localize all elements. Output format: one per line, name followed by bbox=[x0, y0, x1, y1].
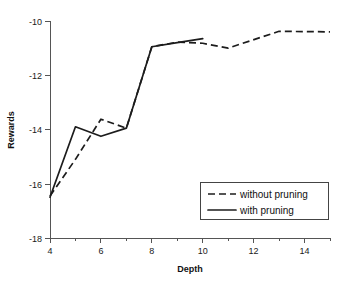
x-tick-label: 12 bbox=[249, 246, 259, 256]
y-tick-label: -18 bbox=[29, 234, 42, 244]
x-tick-label: 8 bbox=[149, 246, 154, 256]
y-tick-label: -16 bbox=[29, 180, 42, 190]
x-tick-label: 4 bbox=[47, 246, 52, 256]
y-axis-ticks bbox=[45, 21, 50, 238]
legend-label-with-pruning: with pruning bbox=[239, 205, 294, 216]
series-with-pruning bbox=[50, 39, 203, 198]
legend-label-without-pruning: without pruning bbox=[239, 189, 308, 200]
series-without-pruning bbox=[50, 31, 330, 196]
x-tick-label: 14 bbox=[299, 246, 309, 256]
chart-legend: without pruning with pruning bbox=[201, 183, 329, 220]
y-axis-title: Rewards bbox=[6, 111, 16, 149]
chart-figure: -10 -12 -14 -16 -18 4 6 8 10 12 14 bbox=[0, 0, 346, 282]
x-axis-title: Depth bbox=[177, 264, 203, 274]
x-tick-label: 6 bbox=[98, 246, 103, 256]
y-tick-label: -10 bbox=[29, 17, 42, 27]
y-tick-label: -12 bbox=[29, 71, 42, 81]
y-tick-label: -14 bbox=[29, 125, 42, 135]
line-chart: -10 -12 -14 -16 -18 4 6 8 10 12 14 bbox=[0, 0, 346, 282]
x-tick-label: 10 bbox=[198, 246, 208, 256]
